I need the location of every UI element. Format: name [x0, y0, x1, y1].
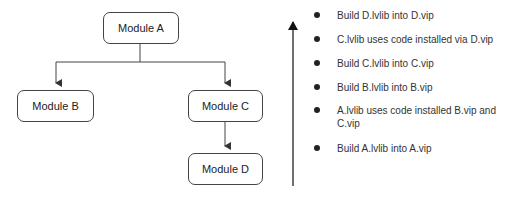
- module-a-label: Module A: [118, 22, 164, 34]
- module-d-label: Module D: [202, 163, 249, 175]
- build-step-text: A.lvlib uses code installed B.vip and C.…: [337, 104, 507, 130]
- bullet-icon: [314, 12, 320, 18]
- bullet-icon: [314, 145, 320, 151]
- module-b-node: Module B: [17, 90, 94, 122]
- module-a-node: Module A: [103, 12, 179, 44]
- build-step-text: Build D.lvlib into D.vip: [337, 9, 517, 22]
- bullet-icon: [314, 60, 320, 66]
- bullet-icon: [314, 107, 320, 113]
- build-step-text: Build C.lvlib into C.vip: [337, 57, 517, 70]
- bullet-icon: [314, 84, 320, 90]
- module-d-node: Module D: [188, 153, 263, 185]
- build-step-text: C.lvlib uses code installed via D.vip: [337, 33, 517, 46]
- build-step-text: Build B.lvlib into B.vip: [337, 81, 517, 94]
- module-c-label: Module C: [202, 100, 249, 112]
- module-b-label: Module B: [32, 100, 78, 112]
- build-step-text: Build A.lvlib into A.vip: [337, 142, 517, 155]
- bullet-icon: [314, 36, 320, 42]
- module-c-node: Module C: [188, 90, 263, 122]
